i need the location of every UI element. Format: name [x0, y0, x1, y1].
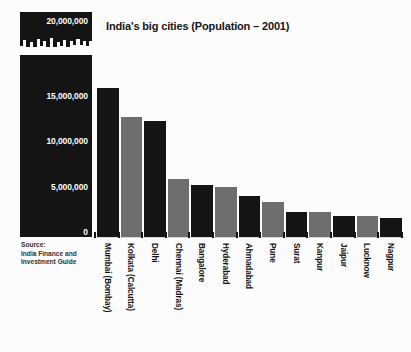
x-axis-category-label: Jaipur [339, 243, 348, 267]
x-axis-category-label: Delhi [150, 243, 159, 263]
source-line-1: Source: [21, 241, 97, 250]
source-line-2: India Finance and [21, 250, 97, 259]
x-axis-tick [330, 232, 332, 238]
x-axis-tick [94, 232, 96, 238]
skyline-scale-badge: 20,000,000 [20, 12, 92, 48]
x-axis-category-label: Bangalore [197, 243, 206, 282]
chart-title: India's big cities (Population – 2001) [106, 20, 289, 32]
bar[interactable] [309, 212, 331, 237]
x-axis-category-label: Pune [268, 243, 277, 263]
plot-area [95, 55, 405, 237]
x-axis-tick [141, 232, 143, 238]
x-axis-tick [259, 232, 261, 238]
y-axis-tick-label: 0 [83, 227, 88, 237]
source-note: Source: India Finance and Investment Gui… [21, 241, 97, 267]
bar[interactable] [121, 117, 143, 237]
bar[interactable] [191, 185, 213, 237]
x-axis-tick [306, 232, 308, 238]
bar[interactable] [97, 88, 119, 237]
x-axis-category-label: Hyderabad [221, 243, 230, 284]
scale-max-label: 20,000,000 [20, 16, 92, 27]
bar[interactable] [239, 196, 261, 237]
x-axis-category-label: Lucknow [362, 243, 371, 278]
y-axis-tick-label: 10,000,000 [46, 136, 88, 146]
city-skyline-icon [20, 35, 92, 48]
x-axis-category-label: Kanpur [315, 243, 324, 271]
bar[interactable] [215, 187, 237, 237]
x-axis-tick [188, 232, 190, 238]
bar[interactable] [144, 121, 166, 237]
x-axis-category-label: Surat [292, 243, 301, 263]
bar-chart: 20,000,000 India's big cities (Populatio… [0, 0, 411, 352]
source-line-3: Investment Guide [21, 258, 97, 267]
bar[interactable] [262, 202, 284, 237]
bar[interactable] [357, 216, 379, 237]
y-axis-tick-label: 5,000,000 [51, 182, 88, 192]
y-axis-panel: 15,000,00010,000,0005,000,0000 [20, 55, 92, 237]
y-axis-tick-label: 15,000,000 [46, 91, 88, 101]
x-axis-tick [118, 232, 120, 238]
x-axis-category-label: Kolkata (Calcutta) [126, 243, 135, 311]
x-axis-category-label: Chennai (Madras) [174, 243, 183, 310]
x-axis-tick [212, 232, 214, 238]
bar[interactable] [333, 216, 355, 237]
x-axis-category-label: Mumbai (Bombay) [103, 243, 112, 312]
x-axis-tick [401, 232, 403, 238]
bar[interactable] [286, 212, 308, 237]
x-axis-tick [354, 232, 356, 238]
bar[interactable] [380, 218, 402, 237]
x-axis-category-label: Nagpur [386, 243, 395, 271]
bar[interactable] [168, 179, 190, 237]
x-axis-tick [377, 232, 379, 238]
x-axis-tick [283, 232, 285, 238]
x-axis-tick [165, 232, 167, 238]
x-axis-category-label: Ahmadabad [244, 243, 253, 289]
x-axis-tick [236, 232, 238, 238]
